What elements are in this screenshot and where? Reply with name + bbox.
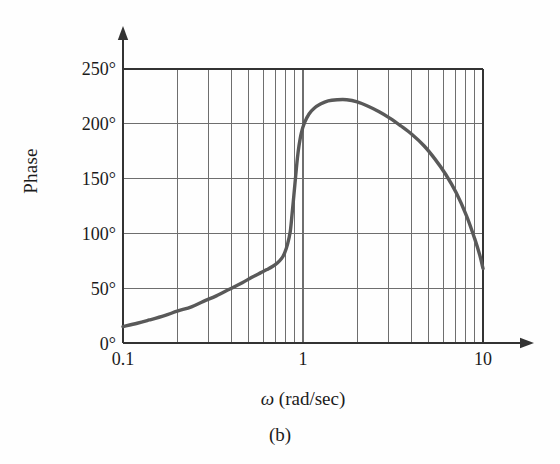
y-tick-100: 100° [54,225,116,243]
omega-symbol: ω [261,388,274,409]
y-tick-50: 50° [54,280,116,298]
axis-arrows [118,26,534,348]
y-tick-150: 150° [54,170,116,188]
y-axis-tick-labels: 250° 200° 150° 100° 50° 0° [52,0,116,464]
phase-bode-figure: 250° 200° 150° 100° 50° 0° 0.1 1 10 Phas… [0,0,560,464]
x-tick-0-1: 0.1 [88,350,158,368]
x-axis-units: (rad/sec) [274,388,345,409]
y-axis-title: Phase [20,111,42,231]
figure-caption: (b) [0,424,560,446]
vertical-gridlines [123,69,483,343]
x-tick-10: 10 [448,350,518,368]
x-tick-1: 1 [268,350,338,368]
x-axis-title: ω (rad/sec) [123,388,483,410]
y-tick-200: 200° [54,115,116,133]
y-tick-250: 250° [54,60,116,78]
